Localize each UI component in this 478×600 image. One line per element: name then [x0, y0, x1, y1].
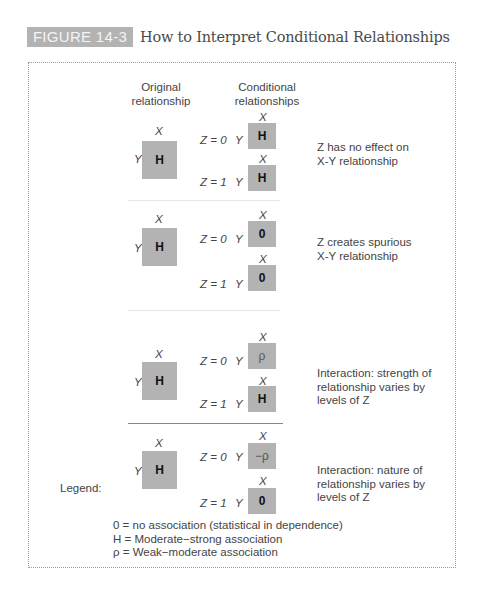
- y-label: Y: [235, 496, 243, 510]
- z1-cell: 0: [248, 488, 276, 514]
- desc-line: levels of Z: [317, 394, 457, 408]
- row-description: Z has no effect on X-Y relationship: [317, 141, 457, 168]
- conditional-header-line2: relationships: [227, 94, 307, 108]
- desc-line: relationship varies by: [317, 478, 457, 492]
- y-label: Y: [134, 375, 142, 389]
- row-description: Interaction: nature of relationship vari…: [317, 464, 457, 505]
- original-header-line2: relationship: [126, 94, 196, 108]
- z0-cell: −ρ: [248, 443, 276, 469]
- x-label: X: [155, 212, 163, 226]
- z0-cell: H: [248, 123, 276, 149]
- figure-badge: FIGURE 14-3: [27, 27, 133, 47]
- z1-label: Z = 1: [200, 175, 227, 189]
- z0-cell: 0: [248, 221, 276, 247]
- legend-item: 0 = no association (statistical in depen…: [113, 519, 343, 533]
- desc-line: X-Y relationship: [317, 155, 457, 169]
- y-label: Y: [235, 450, 243, 464]
- original-header: Original relationship: [126, 80, 196, 108]
- legend: 0 = no association (statistical in depen…: [113, 519, 343, 560]
- original-cell: H: [142, 141, 177, 179]
- z1-cell: H: [248, 386, 276, 412]
- x-label: X: [259, 474, 267, 488]
- legend-item: ρ = Weak−moderate association: [113, 546, 343, 560]
- original-cell: H: [142, 362, 177, 400]
- desc-line: Z creates spurious: [317, 236, 457, 250]
- x-label: X: [155, 436, 163, 450]
- z0-label: Z = 0: [200, 232, 227, 246]
- x-label: X: [259, 110, 267, 124]
- x-label: X: [259, 330, 267, 344]
- x-label: X: [259, 252, 267, 266]
- x-label: X: [259, 429, 267, 443]
- row-divider: [128, 200, 280, 201]
- original-cell: H: [142, 451, 177, 489]
- z0-label: Z = 0: [200, 450, 227, 464]
- x-label: X: [155, 347, 163, 361]
- conditional-header-line1: Conditional: [227, 80, 307, 94]
- figure-title: How to Interpret Conditional Relationshi…: [140, 27, 450, 47]
- z1-cell: 0: [248, 265, 276, 291]
- desc-line: Interaction: strength of: [317, 367, 457, 381]
- y-label: Y: [235, 133, 243, 147]
- desc-line: Interaction: nature of: [317, 464, 457, 478]
- y-label: Y: [235, 232, 243, 246]
- legend-heading: Legend:: [60, 482, 102, 494]
- z0-label: Z = 0: [200, 354, 227, 368]
- x-label: X: [155, 124, 163, 138]
- conditional-header: Conditional relationships: [227, 80, 307, 108]
- z0-label: Z = 0: [200, 133, 227, 147]
- z1-label: Z = 1: [200, 397, 227, 411]
- x-label: X: [259, 208, 267, 222]
- y-label: Y: [134, 152, 142, 166]
- y-label: Y: [235, 354, 243, 368]
- original-header-line1: Original: [126, 80, 196, 94]
- y-label: Y: [134, 464, 142, 478]
- row-description: Z creates spurious X-Y relationship: [317, 236, 457, 263]
- z1-label: Z = 1: [200, 277, 227, 291]
- z1-label: Z = 1: [200, 496, 227, 510]
- row-description: Interaction: strength of relationship va…: [317, 367, 457, 408]
- x-label: X: [259, 152, 267, 166]
- row-divider: [128, 423, 283, 424]
- legend-item: H = Moderate−strong association: [113, 533, 343, 547]
- y-label: Y: [235, 277, 243, 291]
- y-label: Y: [134, 241, 142, 255]
- desc-line: levels of Z: [317, 491, 457, 505]
- y-label: Y: [235, 397, 243, 411]
- y-label: Y: [235, 175, 243, 189]
- row-divider: [128, 310, 280, 311]
- desc-line: relationship varies by: [317, 381, 457, 395]
- z1-cell: H: [248, 165, 276, 191]
- desc-line: X-Y relationship: [317, 250, 457, 264]
- z0-cell: ρ: [248, 343, 276, 369]
- original-cell: H: [142, 228, 177, 266]
- desc-line: Z has no effect on: [317, 141, 457, 155]
